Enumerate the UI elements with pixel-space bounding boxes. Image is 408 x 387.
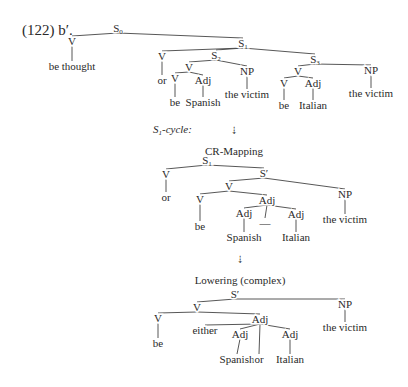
leaf-word: or (254, 353, 264, 365)
leaf-word: be thought (49, 60, 96, 72)
tree-edge (72, 33, 118, 36)
tree-node: V (154, 312, 162, 324)
cycle-label: S1-cycle: (153, 123, 192, 137)
tree-node: V (225, 180, 233, 192)
tree-node: NP (364, 64, 378, 76)
tree-node: V (193, 301, 201, 313)
leaf-word: Spanish (220, 353, 255, 365)
leaf-word: the victim (225, 88, 270, 100)
tree-node: Adj (232, 328, 249, 340)
tree-node: Adj (252, 313, 269, 325)
leaf-word: Spanish (186, 96, 221, 108)
tree-edge (207, 165, 264, 168)
leaf-word: — (259, 217, 272, 229)
tree-node: V (171, 72, 179, 84)
tree-node: V (185, 61, 193, 73)
leaf-word: Italian (299, 99, 328, 111)
tree-edge (264, 178, 345, 189)
tree-node: V (162, 168, 170, 180)
leaf-word: Spanish (227, 231, 262, 243)
tree-node: Adj (305, 77, 322, 89)
tree-edges (72, 33, 371, 354)
leaf-word: or (157, 74, 167, 86)
diagram-canvas: (122) b′. S0S0VVbe thoughtbe thoughtS1S1… (0, 0, 408, 387)
tree-node: V (158, 50, 166, 62)
tree-node: Adj (259, 194, 276, 206)
tree-node: V (196, 193, 204, 205)
syntax-tree-diagram: (122) b′. S0S0VVbe thoughtbe thoughtS1S1… (0, 0, 408, 387)
leaf-word: be (153, 337, 164, 349)
step-cr-mapping: CR-Mapping (205, 145, 264, 157)
tree-node: NP (240, 65, 254, 77)
tree-node: Adj (288, 208, 305, 220)
tree-node: V (68, 35, 76, 47)
leaf-word: Italian (282, 231, 311, 243)
tree-node: NP (338, 188, 352, 200)
example-label: (122) b′. (22, 22, 73, 39)
derivation-arrow-2: ⇣ (236, 254, 244, 265)
leaf-word: or (161, 191, 171, 203)
cycle-label-suffix: -cycle: (162, 123, 192, 135)
tree-edge (315, 64, 371, 65)
tree-node: Adj (236, 207, 253, 219)
leaf-word: be (170, 96, 181, 108)
tree-node: S′ (260, 167, 269, 179)
leaf-word: Italian (276, 353, 305, 365)
leaf-word: the victim (323, 321, 368, 333)
tree-nodes: S0S0VVbe thoughtbe thoughtS1S1VVororS2S2… (49, 22, 394, 365)
tree-node: S′ (231, 288, 240, 300)
tree-edge (197, 299, 235, 302)
tree-edge (237, 339, 240, 354)
leaf-word: the victim (323, 213, 368, 225)
tree-node: NP (338, 298, 352, 310)
leaf-word: be (195, 220, 206, 232)
tree-edge (118, 33, 243, 38)
tree-edge (197, 312, 260, 314)
tree-edge (243, 48, 315, 54)
tree-edge (259, 324, 260, 354)
derivation-arrow-1: ⇣ (230, 125, 238, 136)
step-lowering: Lowering (complex) (195, 274, 286, 287)
leaf-word: the victim (349, 87, 394, 99)
tree-node: Adj (282, 328, 299, 340)
tree-node: Adj (195, 74, 212, 86)
tree-node: V (280, 77, 288, 89)
tree-node: V (294, 65, 302, 77)
leaf-word: be (279, 99, 290, 111)
leaf-word: either (192, 324, 217, 336)
tree-edge (158, 312, 197, 313)
